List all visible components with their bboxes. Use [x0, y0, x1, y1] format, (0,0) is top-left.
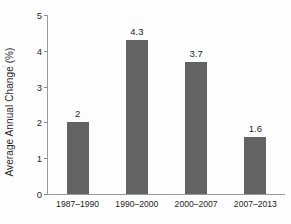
y-tick-label: 4 — [28, 45, 42, 56]
x-axis-tick-labels: 1987–19901990–20002000–20072007–2013 — [48, 199, 285, 213]
y-tick-label: 2 — [28, 117, 42, 128]
y-tick-label: 1 — [28, 153, 42, 164]
bar — [185, 62, 207, 194]
bar — [67, 122, 89, 194]
bar-group: 2 — [48, 15, 107, 194]
x-axis-line — [47, 194, 285, 195]
y-tick-label: 0 — [28, 189, 42, 200]
x-tick-label: 1990–2000 — [115, 199, 158, 209]
bar — [126, 40, 148, 194]
bar-group: 3.7 — [167, 15, 226, 194]
y-axis-tick-labels: 012345 — [26, 0, 42, 224]
bar-group: 4.3 — [107, 15, 166, 194]
bar-group: 1.6 — [226, 15, 285, 194]
y-tick-label: 5 — [28, 10, 42, 21]
bar-value-label: 2 — [75, 108, 80, 119]
bar-value-label: 4.3 — [130, 26, 143, 37]
y-axis-title: Average Annual Change (%) — [0, 0, 18, 224]
bar-value-label: 3.7 — [190, 48, 203, 59]
plot-area: 24.33.71.6 — [48, 15, 285, 194]
bar — [244, 137, 266, 194]
chart-figure: Average Annual Change (%) 012345 24.33.7… — [0, 0, 291, 224]
bar-value-label: 1.6 — [249, 123, 262, 134]
x-tick-label: 2007–2013 — [234, 199, 277, 209]
y-tick-label: 3 — [28, 81, 42, 92]
x-tick-label: 2000–2007 — [175, 199, 218, 209]
x-tick-label: 1987–1990 — [56, 199, 99, 209]
